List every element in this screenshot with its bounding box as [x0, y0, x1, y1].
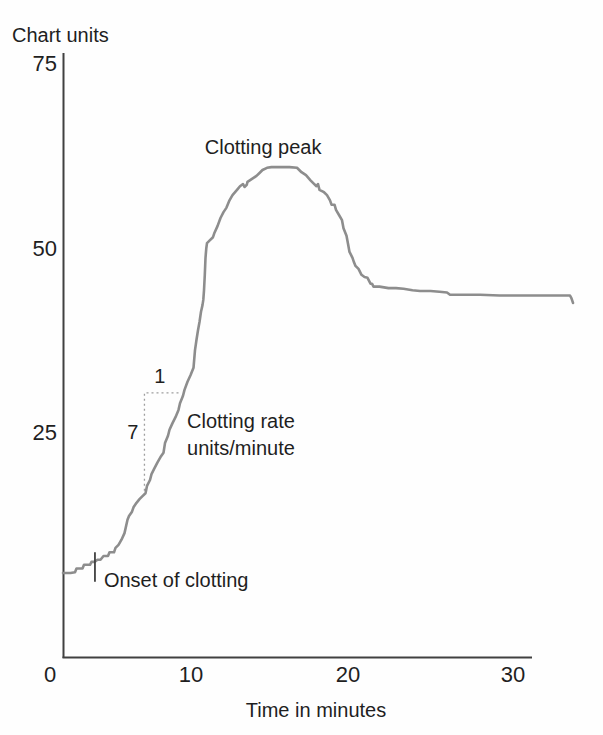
- onset-label: Onset of clotting: [104, 569, 249, 591]
- clotting-peak-label-line-1: Clotting peak: [205, 136, 323, 158]
- slope-run-label-line-1: 1: [154, 365, 165, 387]
- annotations-group: Clotting peakClotting rateunits/minuteOn…: [104, 136, 323, 591]
- clotting-rate-label-line-2: units/minute: [187, 437, 295, 459]
- y-axis-title: Chart units: [12, 24, 109, 46]
- x-tick-label-30: 30: [501, 662, 525, 687]
- x-axis-title: Time in minutes: [246, 699, 386, 721]
- clotting-rate-label-line-1: Clotting rate: [187, 410, 295, 432]
- clotting-peak-label: Clotting peak: [205, 136, 323, 158]
- slope-rise-label: 7: [127, 421, 138, 443]
- x-tick-label-10: 10: [179, 662, 203, 687]
- clotting-chart: Chart units Time in minutes 010203075502…: [0, 0, 603, 735]
- slope-run-label: 1: [154, 365, 165, 387]
- slope-rise-label-line-1: 7: [127, 421, 138, 443]
- clotting-signal-curve: [63, 167, 573, 573]
- y-tick-label-25: 25: [33, 420, 57, 445]
- y-tick-label-50: 50: [33, 236, 57, 261]
- x-tick-label-0: 0: [44, 662, 56, 687]
- y-tick-label-75: 75: [33, 51, 57, 76]
- clotting-rate-label: Clotting rateunits/minute: [187, 410, 295, 459]
- chart-canvas: Chart units Time in minutes 010203075502…: [0, 0, 603, 735]
- onset-label-line-1: Onset of clotting: [104, 569, 249, 591]
- curve-group: [63, 167, 573, 582]
- x-tick-label-20: 20: [336, 662, 360, 687]
